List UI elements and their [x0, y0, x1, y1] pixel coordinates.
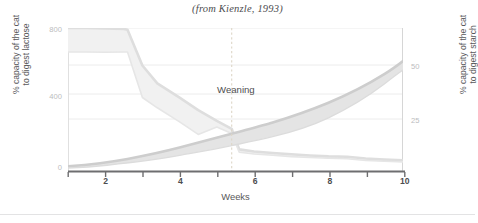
y-axis-left-title-line1: % capacity of the cat: [11, 0, 21, 114]
x-axis-tick-10: 10: [395, 176, 415, 186]
x-axis-title: Weeks: [68, 191, 403, 202]
y-axis-right-tick-25: 25: [411, 116, 433, 125]
x-axis-tick-4: 4: [170, 176, 190, 186]
y-axis-left-tick-800: 800: [40, 25, 62, 34]
y-axis-right-title-line2: to digest starch: [468, 0, 478, 114]
bottom-divider: [0, 214, 475, 215]
figure-title: (from Kienzle, 1993): [0, 3, 475, 14]
x-axis-tick-2: 2: [96, 176, 116, 186]
y-axis-left-title-line2: to digest lactose: [21, 0, 31, 114]
x-axis-ticks: [68, 172, 405, 177]
y-axis-left-tick-400: 400: [40, 92, 62, 101]
chart-svg: [68, 28, 403, 171]
y-axis-right-title-line1: % capacity of the cat: [458, 0, 468, 114]
starch-band-area: [68, 61, 403, 168]
x-axis-tick-6: 6: [245, 176, 265, 186]
lactose-lower-line: [68, 52, 403, 162]
starch-upper-line: [68, 61, 403, 166]
y-axis-left-title: % capacity of the cat to digest lactose: [11, 0, 32, 114]
y-axis-left-tick-0: 0: [40, 163, 62, 172]
y-axis-right-title: % capacity of the cat to digest starch: [458, 0, 478, 114]
plot-area: [68, 28, 403, 171]
y-axis-right-tick-50: 50: [411, 62, 433, 71]
weaning-annotation-label: Weaning: [217, 84, 255, 95]
x-axis-tick-8: 8: [320, 176, 340, 186]
